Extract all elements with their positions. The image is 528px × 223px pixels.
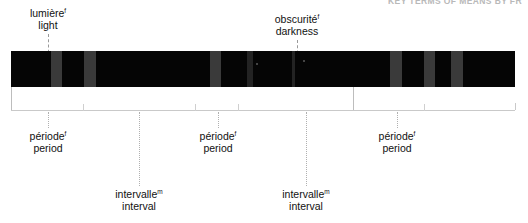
rule-end-cap-right (515, 103, 516, 110)
label-period-1-en: period (0, 142, 108, 154)
gender-marker: f (65, 130, 67, 137)
rule-tick-2 (195, 104, 196, 111)
light-band-1 (51, 51, 62, 87)
label-period-3: périodefperiod (337, 130, 457, 154)
gender-marker: f (414, 130, 416, 137)
rule-riser-2 (353, 87, 354, 110)
label-period-1: périodefperiod (0, 130, 108, 154)
label-period-3-fr: périodef (337, 130, 457, 142)
label-period-3-en: period (337, 142, 457, 154)
light-band-3 (210, 51, 221, 87)
gender-marker: m (324, 188, 329, 195)
drop-line-interval-1 (139, 112, 140, 186)
callout-light: lumièreflight (0, 8, 108, 31)
rule-riser-1 (11, 87, 12, 110)
gender-marker: f (317, 13, 319, 20)
light-dark-bar (11, 51, 515, 87)
label-interval-2-en: interval (246, 200, 366, 212)
drop-line-period-2 (218, 112, 219, 128)
bar-speck-2 (303, 60, 305, 62)
light-darkness-period-diagram: KEY TERMS OF MEANS BY FR lumièreflightob… (0, 0, 528, 223)
light-band-4 (247, 51, 253, 87)
light-band-7 (424, 51, 435, 87)
callout-darkness-en: darkness (237, 26, 357, 38)
label-interval-1: intervalleminterval (79, 188, 199, 212)
drop-line-period-3 (397, 112, 398, 128)
light-band-2 (84, 51, 96, 87)
gender-marker: m (157, 188, 162, 195)
bar-speck-1 (256, 63, 258, 65)
light-band-8 (451, 51, 463, 87)
label-period-2: périodefperiod (158, 130, 278, 154)
label-period-2-en: period (158, 142, 278, 154)
callout-light-fr: lumièref (0, 8, 108, 20)
callout-darkness-fr: obscuritéf (237, 14, 357, 26)
label-period-2-fr: périodef (158, 130, 278, 142)
gender-marker: f (235, 130, 237, 137)
gender-marker: f (64, 7, 66, 14)
rule-baseline (11, 110, 515, 111)
rule-tick-1 (83, 104, 84, 111)
light-band-6 (390, 51, 402, 87)
rule-tick-3 (238, 104, 239, 111)
label-interval-2-fr: intervallem (246, 188, 366, 200)
callout-darkness: obscuritéfdarkness (237, 14, 357, 37)
label-period-1-fr: périodef (0, 130, 108, 142)
label-interval-1-fr: intervallem (79, 188, 199, 200)
label-interval-1-en: interval (79, 200, 199, 212)
drop-line-interval-2 (306, 112, 307, 186)
running-head-text: KEY TERMS OF MEANS BY FR (388, 0, 522, 4)
light-band-5 (292, 51, 295, 87)
rule-tick-4 (424, 104, 425, 111)
label-interval-2: intervalleminterval (246, 188, 366, 212)
drop-line-period-1 (48, 112, 49, 128)
callout-light-en: light (0, 20, 108, 32)
